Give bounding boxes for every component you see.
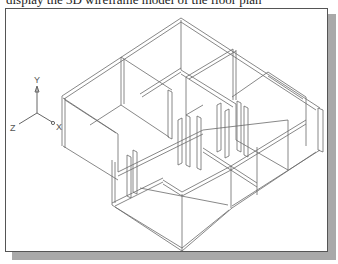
x-axis-label: X — [56, 122, 62, 132]
wireframe-canvas[interactable]: Y Z X — [0, 0, 338, 264]
floor-plan-wireframe — [62, 18, 323, 251]
y-axis-label: Y — [34, 75, 40, 85]
z-axis-label: Z — [10, 123, 16, 133]
ucs-icon: Y Z X — [10, 75, 62, 133]
